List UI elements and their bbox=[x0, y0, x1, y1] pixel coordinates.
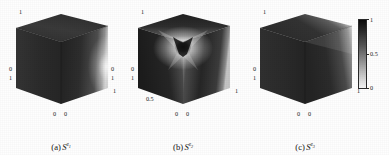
caption-c-sub-index: 3 bbox=[313, 144, 315, 149]
caption-b-label: (b) bbox=[173, 142, 183, 152]
colorbar-gradient bbox=[358, 19, 367, 89]
tick-c-left-upper: 1 bbox=[263, 9, 266, 15]
panel-c: 1 0 1 0 0 1 (c)Se3 bbox=[244, 0, 366, 155]
tick-b-bottom-mid: 0.5 bbox=[146, 96, 153, 102]
caption-c-superscript: e3 bbox=[311, 141, 315, 147]
tick-c-bottom-right: 0 bbox=[308, 111, 311, 117]
colorbar: 1 0.5 0 bbox=[358, 19, 386, 91]
colorbar-tick-0: 0 bbox=[370, 85, 373, 91]
tick-b-bottom-right: 0 bbox=[186, 111, 189, 117]
caption-a-sub-index: 1 bbox=[69, 144, 71, 149]
cube-surface-c bbox=[260, 14, 360, 114]
tick-a-right-middle: 1 bbox=[111, 75, 114, 81]
caption-b: (b)Se2 bbox=[122, 141, 244, 152]
caption-a-label: (a) bbox=[51, 142, 61, 152]
tick-a-bottom-left: 0 bbox=[53, 111, 56, 117]
colorbar-mark-mid bbox=[367, 54, 369, 55]
tick-c-left-lower: 1 bbox=[253, 75, 256, 81]
figure-container: 1 0 1 0 0 0 1 1 (a)Se1 bbox=[0, 0, 389, 155]
colorbar-mark-top bbox=[367, 19, 369, 20]
caption-a-superscript: e1 bbox=[67, 141, 71, 147]
cube-surface-a bbox=[16, 14, 116, 114]
tick-c-left-middle: 0 bbox=[253, 66, 256, 72]
panel-b: 1 0 1 0.5 0 0 1 (b)Se2 bbox=[122, 0, 244, 155]
caption-a: (a)Se1 bbox=[0, 141, 122, 152]
tick-a-bottom-right: 0 bbox=[64, 111, 67, 117]
caption-b-sub-index: 2 bbox=[191, 144, 193, 149]
tick-b-bottom-left: 0 bbox=[175, 111, 178, 117]
tick-a-right-upper: 0 bbox=[111, 66, 114, 72]
caption-c: (c)Se3 bbox=[244, 141, 366, 152]
tick-a-left-middle: 0 bbox=[9, 66, 12, 72]
tick-c-bottom-left: 0 bbox=[297, 111, 300, 117]
panel-a: 1 0 1 0 0 0 1 1 (a)Se1 bbox=[0, 0, 122, 155]
tick-b-left-middle: 0 bbox=[131, 66, 134, 72]
tick-b-left-upper: 1 bbox=[141, 9, 144, 15]
colorbar-mark-bottom bbox=[367, 88, 369, 89]
caption-c-label: (c) bbox=[295, 142, 305, 152]
tick-a-left-lower: 1 bbox=[9, 75, 12, 81]
tick-a-right-lower: 1 bbox=[113, 88, 116, 94]
tick-b-right-lower: 1 bbox=[235, 88, 238, 94]
caption-b-superscript: e2 bbox=[189, 141, 193, 147]
colorbar-tick-0-5: 0.5 bbox=[370, 51, 378, 57]
tick-b-left-lower: 1 bbox=[131, 75, 134, 81]
tick-a-left-upper: 1 bbox=[19, 9, 22, 15]
colorbar-tick-1: 1 bbox=[370, 17, 373, 23]
